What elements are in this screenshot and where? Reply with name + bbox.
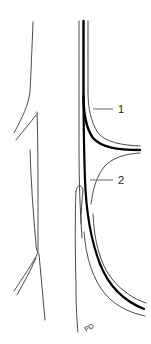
label-2: 2 [118, 174, 124, 186]
figure-background [0, 0, 151, 344]
figure-container: 1 2 PD [0, 0, 151, 344]
vessel-diagram-svg: 1 2 PD [0, 0, 151, 344]
label-1: 1 [118, 103, 124, 115]
